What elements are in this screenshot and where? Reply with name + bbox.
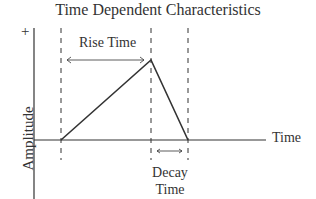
decay-line2: Time bbox=[150, 181, 190, 198]
decay-arrow bbox=[157, 149, 182, 153]
y-axis-label: Amplitude bbox=[20, 99, 37, 179]
rise-arrow bbox=[67, 57, 144, 63]
x-axis-label: Time bbox=[272, 130, 301, 146]
diagram-title: Time Dependent Characteristics bbox=[0, 1, 316, 19]
y-positive-label: + bbox=[21, 23, 29, 40]
pulse-line bbox=[61, 60, 188, 140]
decay-line1: Decay bbox=[150, 164, 190, 181]
rise-time-label: Rise Time bbox=[79, 35, 136, 51]
decay-time-label: Decay Time bbox=[150, 164, 190, 198]
